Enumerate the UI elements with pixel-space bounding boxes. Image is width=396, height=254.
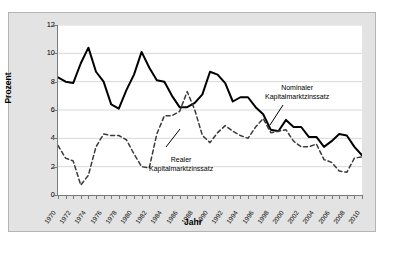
x-tick-mark bbox=[225, 196, 226, 199]
x-tick-mark bbox=[271, 196, 272, 199]
x-tick-mark bbox=[339, 196, 340, 199]
x-tick-mark bbox=[149, 196, 150, 199]
x-tick-mark bbox=[294, 196, 295, 199]
x-tick-mark bbox=[104, 196, 105, 199]
x-tick-mark bbox=[263, 196, 264, 199]
x-tick-mark bbox=[218, 196, 219, 199]
x-tick-mark bbox=[362, 196, 363, 199]
annotation-nominal-line2: Kapitalmarktzinssatz bbox=[265, 93, 329, 102]
chart-figure: Prozent 024681012 1970197219741976197819… bbox=[8, 12, 376, 232]
x-tick-mark bbox=[233, 196, 234, 199]
annotation-realer-kapitalmarktzinssatz: Realer Kapitalmarktzinssatz bbox=[149, 156, 213, 174]
x-tick-mark bbox=[286, 196, 287, 199]
x-tick-mark bbox=[66, 196, 67, 199]
x-tick-mark bbox=[180, 196, 181, 199]
x-tick-mark bbox=[210, 196, 211, 199]
x-tick-mark bbox=[172, 196, 173, 199]
annotation-nominal-line1: Nominaler bbox=[265, 84, 329, 93]
x-tick-mark bbox=[324, 196, 325, 199]
x-tick-mark bbox=[58, 196, 59, 199]
y-axis-title: Prozent bbox=[3, 72, 13, 103]
x-tick-mark bbox=[278, 196, 279, 199]
x-tick-mark bbox=[96, 196, 97, 199]
x-tick-mark bbox=[309, 196, 310, 199]
annotation-real-line2: Kapitalmarktzinssatz bbox=[149, 165, 213, 174]
x-tick-mark bbox=[119, 196, 120, 199]
x-tick-mark bbox=[354, 196, 355, 199]
series-line-nominal bbox=[58, 48, 362, 156]
x-tick-mark bbox=[316, 196, 317, 199]
x-tick-mark bbox=[240, 196, 241, 199]
x-tick-mark bbox=[157, 196, 158, 199]
x-tick-mark bbox=[81, 196, 82, 199]
x-tick-mark bbox=[301, 196, 302, 199]
x-tick-mark bbox=[73, 196, 74, 199]
x-tick-mark bbox=[142, 196, 143, 199]
y-axis-tick-labels: 024681012 bbox=[35, 25, 55, 195]
x-tick-mark bbox=[126, 196, 127, 199]
x-tick-mark bbox=[164, 196, 165, 199]
x-tick-mark bbox=[248, 196, 249, 199]
x-tick-mark bbox=[347, 196, 348, 199]
x-tick-mark bbox=[202, 196, 203, 199]
x-tick-mark bbox=[111, 196, 112, 199]
x-tick-mark bbox=[187, 196, 188, 199]
x-tick-mark bbox=[88, 196, 89, 199]
x-tick-mark bbox=[134, 196, 135, 199]
annotation-nominaler-kapitalmarktzinssatz: Nominaler Kapitalmarktzinssatz bbox=[265, 84, 329, 102]
annotation-real-line1: Realer bbox=[149, 156, 213, 165]
x-tick-mark bbox=[256, 196, 257, 199]
x-tick-mark bbox=[332, 196, 333, 199]
x-tick-mark bbox=[195, 196, 196, 199]
x-axis-title: Jahr bbox=[9, 217, 377, 227]
